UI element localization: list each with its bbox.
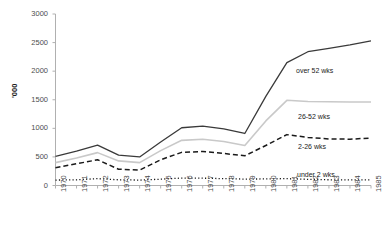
y-tick-label: 500 [14,153,48,161]
x-tick-label: 1974 [144,175,152,192]
x-tick-label: 1980 [270,175,278,192]
y-tick-label: 1000 [14,124,48,132]
x-tick-label: 1972 [102,175,110,192]
x-tick-label: 1971 [81,175,89,192]
x-tick-label: 1979 [249,175,257,192]
x-tick-label: 1975 [165,175,173,192]
x-tick-label: 1978 [228,175,236,192]
y-tick-label: 2000 [14,67,48,75]
line-chart: 050010001500200025003000 197019711972197… [0,0,387,225]
y-tick-label: 0 [14,182,48,190]
x-tick-label: 1976 [186,175,194,192]
x-tick-label: 1977 [207,175,215,192]
y-tick-label: 2500 [14,39,48,47]
x-tick-label: 1985 [375,175,383,192]
x-tick-label: 1984 [354,175,362,192]
axis-lines [56,14,372,186]
y-tick-label: 1500 [14,96,48,104]
y-axis-title: '000 [11,84,19,98]
series-label-2-26-wks: 2-26 wks [298,143,326,151]
y-tick-label: 3000 [14,10,48,18]
series-label-26-52-wks: 26-52 wks [298,113,330,121]
x-tick-label: 1970 [60,175,68,192]
x-tick-label: 1973 [123,175,131,192]
series-label-under-2-wks: under 2 wks [297,171,335,179]
series-label-over-52-wks: over 52 wks [296,67,333,75]
series-line [56,100,372,162]
data-series-group [56,41,372,180]
series-line [56,41,372,157]
